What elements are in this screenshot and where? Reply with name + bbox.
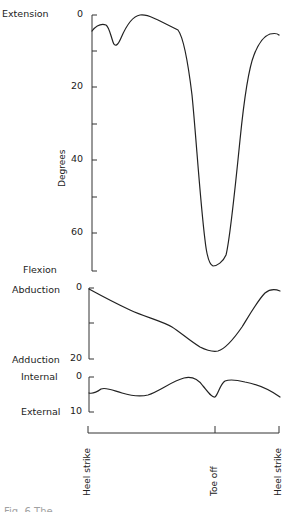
- figure-caption: Fig. 6 The ...: [4, 505, 65, 512]
- adduction-label: Adduction: [12, 354, 60, 365]
- rotation-tick-10: 10: [62, 405, 82, 416]
- flexion-tick-20: 20: [63, 80, 83, 91]
- abduction-adduction-curve: [89, 289, 280, 351]
- extension-label: Extension: [2, 8, 49, 19]
- flexion-extension-curve: [92, 15, 279, 266]
- internal-external-rotation-curve: [89, 377, 280, 397]
- external-label: External: [21, 406, 60, 417]
- flexion-tick-0: 0: [63, 8, 83, 19]
- abduction-tick-20: 20: [62, 352, 82, 363]
- flexion-label: Flexion: [23, 264, 57, 275]
- rotation-tick-0: 0: [62, 370, 82, 381]
- abduction-label: Abduction: [12, 284, 60, 295]
- heel-strike-end-label: Heel strike: [273, 448, 283, 496]
- gait-chart-canvas: [0, 0, 299, 512]
- heel-strike-start-label: Heel strike: [82, 448, 92, 496]
- abduction-tick-0: 0: [62, 281, 82, 292]
- flexion-tick-60: 60: [63, 226, 83, 237]
- toe-off-label: Toe off: [209, 466, 219, 496]
- degrees-axis-label: Degrees: [57, 150, 67, 187]
- internal-label: Internal: [21, 371, 58, 382]
